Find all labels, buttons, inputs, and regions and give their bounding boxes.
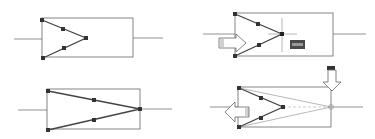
grip-icon[interactable] <box>281 105 285 109</box>
grip-icon[interactable] <box>41 56 45 60</box>
grip-icon[interactable] <box>259 116 263 120</box>
triangle-outline <box>48 91 140 130</box>
grip-icon[interactable] <box>62 46 66 50</box>
bounding-rectangle <box>47 89 140 129</box>
panel-1 <box>14 18 163 60</box>
triangle-outline <box>235 14 282 56</box>
preview-line-bottom <box>239 107 331 127</box>
grip-icon[interactable] <box>84 36 88 40</box>
tooltip-label-text-blurred <box>292 43 303 46</box>
panel-3 <box>18 89 172 132</box>
grip-icon[interactable] <box>61 27 65 31</box>
grip-icon[interactable] <box>138 107 142 111</box>
selected-grip-icon[interactable] <box>280 32 284 36</box>
grip-icon[interactable] <box>237 125 241 129</box>
grip-icon[interactable] <box>237 86 241 90</box>
grip-icon[interactable] <box>40 18 44 22</box>
grip-icon[interactable] <box>92 98 96 102</box>
panel-4 <box>210 70 363 129</box>
grip-icon[interactable] <box>92 118 96 122</box>
grip-icon[interactable] <box>257 43 261 47</box>
triangle-outline <box>42 20 86 58</box>
grip-icon[interactable] <box>46 89 50 93</box>
panel-2 <box>203 12 366 70</box>
left-arrow-icon <box>225 102 249 122</box>
grip-icon[interactable] <box>256 22 260 26</box>
grip-icon[interactable] <box>233 12 237 16</box>
preview-line-top <box>239 88 331 107</box>
grip-icon[interactable] <box>46 128 50 132</box>
grip-icon[interactable] <box>233 54 237 58</box>
diagram-canvas <box>0 0 375 139</box>
down-arrow-icon <box>323 70 341 91</box>
grip-icon[interactable] <box>259 96 263 100</box>
arrow-tail-cap <box>327 66 335 70</box>
